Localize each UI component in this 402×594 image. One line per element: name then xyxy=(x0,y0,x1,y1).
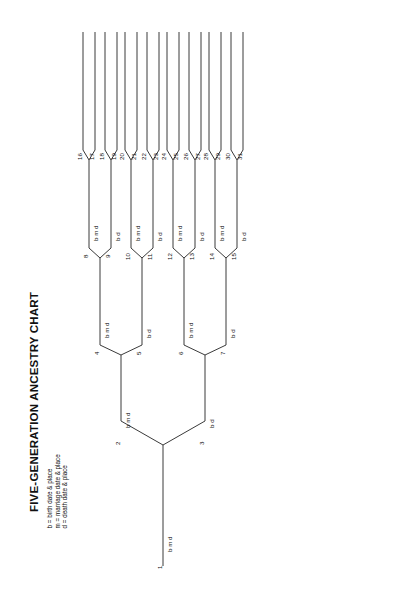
person-fields-12: b m d xyxy=(177,226,183,241)
person-number-24[interactable]: 24 xyxy=(161,153,167,160)
person-number-20[interactable]: 20 xyxy=(119,153,125,160)
person-number-12[interactable]: 12 xyxy=(167,253,173,260)
person-fields-3: b d xyxy=(209,419,215,428)
person-number-28[interactable]: 28 xyxy=(203,153,209,160)
person-number-27[interactable]: 27 xyxy=(195,153,201,160)
person-fields-7: b d xyxy=(230,329,236,338)
person-fields-5: b d xyxy=(146,329,152,338)
person-fields-11: b d xyxy=(157,232,163,241)
person-fields-6: b m d xyxy=(188,323,194,338)
person-number-31[interactable]: 31 xyxy=(237,153,243,160)
person-number-29[interactable]: 29 xyxy=(215,153,221,160)
person-fields-10: b m d xyxy=(135,226,141,241)
pedigree-lines xyxy=(0,0,402,594)
person-number-1[interactable]: 1 xyxy=(157,566,163,569)
person-number-11[interactable]: 11 xyxy=(147,254,153,260)
person-fields-8: b m d xyxy=(93,226,99,241)
person-number-6[interactable]: 6 xyxy=(178,352,184,355)
person-fields-1: b m d xyxy=(167,537,173,552)
person-number-2[interactable]: 2 xyxy=(115,442,121,445)
person-number-16[interactable]: 16 xyxy=(77,153,83,160)
person-number-23[interactable]: 23 xyxy=(153,153,159,160)
person-fields-14: b m d xyxy=(219,226,225,241)
person-number-17[interactable]: 17 xyxy=(89,153,95,160)
person-number-22[interactable]: 22 xyxy=(141,153,147,160)
person-fields-2: b m d xyxy=(125,413,131,428)
person-number-15[interactable]: 15 xyxy=(231,253,237,260)
person-fields-13: b d xyxy=(199,232,205,241)
person-number-3[interactable]: 3 xyxy=(199,442,205,445)
person-number-21[interactable]: 21 xyxy=(131,153,137,160)
person-fields-4: b m d xyxy=(104,323,110,338)
person-number-5[interactable]: 5 xyxy=(136,352,142,355)
person-fields-9: b d xyxy=(115,232,121,241)
person-number-9[interactable]: 9 xyxy=(105,255,111,258)
person-number-10[interactable]: 10 xyxy=(125,253,131,260)
person-number-8[interactable]: 8 xyxy=(83,255,89,258)
ancestry-chart: FIVE-GENERATION ANCESTRY CHART b = birth… xyxy=(0,0,402,594)
person-number-14[interactable]: 14 xyxy=(209,253,215,260)
person-number-7[interactable]: 7 xyxy=(220,352,226,355)
person-number-26[interactable]: 26 xyxy=(183,153,189,160)
person-fields-15: b d xyxy=(241,232,247,241)
person-number-25[interactable]: 25 xyxy=(173,153,179,160)
person-number-4[interactable]: 4 xyxy=(94,352,100,355)
person-number-18[interactable]: 18 xyxy=(99,153,105,160)
person-number-13[interactable]: 13 xyxy=(189,253,195,260)
person-number-30[interactable]: 30 xyxy=(225,153,231,160)
person-number-19[interactable]: 19 xyxy=(111,153,117,160)
